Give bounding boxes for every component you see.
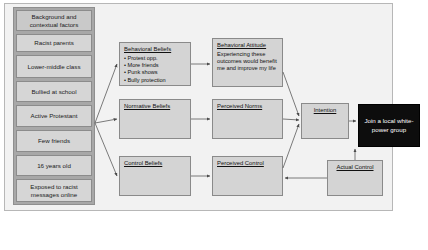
node-behavioral-beliefs: Behavioral Beliefs Protest opp. More fri… bbox=[119, 42, 191, 86]
node-behavioral-attitude-title: Behavioral Attitude bbox=[217, 42, 266, 50]
node-intention-title: Intention bbox=[306, 107, 344, 115]
node-perceived-control-title: Perceived Control bbox=[217, 160, 264, 168]
node-normative-beliefs: Normative Beliefs bbox=[119, 99, 191, 139]
context-item-bullied-at-school: Bullied at school bbox=[16, 81, 92, 102]
node-normative-beliefs-title: Normative Beliefs bbox=[124, 103, 170, 111]
node-perceived-norms: Perceived Norms bbox=[212, 99, 283, 139]
context-item-active-protestant: Active Protestant bbox=[16, 105, 92, 127]
context-item-16-years-old: 16 years old bbox=[16, 155, 92, 176]
bullet-punk-shows: Punk shows bbox=[124, 69, 186, 76]
node-behavioral-beliefs-bullets: Protest opp. More friends Punk shows Bul… bbox=[124, 55, 186, 85]
context-item-racist-parents: Racist parents bbox=[16, 34, 92, 52]
bullet-bully-protection: Bully protection bbox=[124, 77, 186, 84]
context-item-lower-middle-class: Lower-middle class bbox=[16, 55, 92, 78]
node-behavioral-attitude-body: Experiencing these outcomes would benefi… bbox=[217, 51, 278, 73]
context-item-few-friends: Few friends bbox=[16, 130, 92, 152]
node-actual-control: Actual Control bbox=[327, 160, 383, 196]
bullet-more-friends: More friends bbox=[124, 62, 186, 69]
node-perceived-control: Perceived Control bbox=[212, 156, 283, 196]
background-panel-header: Background and contextual factors bbox=[16, 10, 92, 31]
node-behavior-join-white-power-group: Join a local white-power group bbox=[358, 104, 420, 147]
context-item-exposed-to-racist-messages: Exposed to racist messages online bbox=[16, 179, 92, 202]
node-control-beliefs: Control Beliefs bbox=[119, 156, 191, 196]
node-perceived-norms-title: Perceived Norms bbox=[217, 103, 262, 111]
bullet-protest-opp: Protest opp. bbox=[124, 55, 186, 62]
diagram-canvas: Background and contextual factors Racist… bbox=[0, 0, 428, 250]
node-control-beliefs-title: Control Beliefs bbox=[124, 160, 162, 168]
node-intention: Intention bbox=[301, 103, 349, 139]
node-behavioral-attitude: Behavioral Attitude Experiencing these o… bbox=[212, 38, 283, 87]
node-actual-control-title: Actual Control bbox=[332, 164, 378, 172]
node-behavioral-beliefs-title: Behavioral Beliefs bbox=[124, 46, 171, 54]
